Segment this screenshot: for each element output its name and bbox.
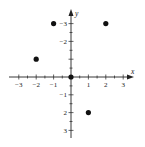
x-tick-label: −2 [32, 81, 40, 89]
x-tick-label: −3 [15, 81, 23, 89]
x-tick-label: −1 [50, 81, 58, 89]
data-point [86, 110, 91, 115]
y-tick-label: 2 [64, 109, 68, 117]
y-tick-label: −3 [60, 20, 68, 28]
data-point [51, 21, 56, 26]
x-tick-label: 1 [87, 81, 91, 89]
axes [9, 9, 134, 138]
data-point [68, 74, 73, 79]
scatter-plot: −3−2−112332−1−2−3 x y [0, 0, 145, 147]
y-axis-arrow-icon [69, 9, 74, 16]
data-point [34, 57, 39, 62]
x-tick-label: 2 [104, 81, 108, 89]
y-axis-label: y [74, 9, 79, 18]
y-tick-label: −1 [60, 91, 68, 99]
x-tick-label: 3 [121, 81, 125, 89]
x-axis-label: x [130, 67, 135, 76]
data-point [103, 21, 108, 26]
y-tick-label: 3 [64, 127, 68, 135]
y-tick-label: −2 [60, 38, 68, 46]
